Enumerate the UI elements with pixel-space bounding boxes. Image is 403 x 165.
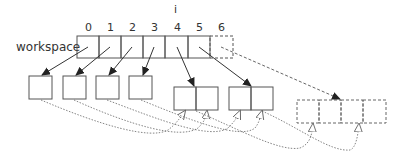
index-labels: 0 1 2 3 4 5 6 bbox=[85, 21, 225, 34]
index-3: 3 bbox=[151, 21, 158, 34]
curve-pairB-to-quad3 bbox=[262, 111, 359, 150]
node-box-0 bbox=[29, 76, 52, 99]
pair-b-cell-0 bbox=[229, 87, 251, 110]
pair-nodes bbox=[174, 87, 273, 110]
quad-cell-3 bbox=[363, 100, 386, 123]
index-4: 4 bbox=[174, 21, 181, 34]
node-box-1 bbox=[63, 76, 86, 99]
arrow-ws6-to-quad bbox=[221, 47, 340, 99]
curve-box0-to-pairA0 bbox=[41, 100, 185, 133]
quad-cell-2 bbox=[341, 100, 363, 123]
workspace-label: workspace bbox=[16, 40, 80, 54]
index-5: 5 bbox=[196, 21, 203, 34]
index-2: 2 bbox=[129, 21, 136, 34]
index-0: 0 bbox=[85, 21, 92, 34]
diagram-canvas: i workspace 0 1 2 3 4 5 6 bbox=[0, 0, 403, 165]
curve-pairA-to-quad1 bbox=[196, 111, 313, 148]
single-nodes bbox=[29, 76, 152, 99]
quad-cell-1 bbox=[319, 100, 341, 123]
arrow-ws4-to-pairA bbox=[177, 47, 194, 86]
workspace-diagram: i workspace 0 1 2 3 4 5 6 bbox=[0, 0, 403, 165]
arrow-ws3-to-box3 bbox=[143, 47, 154, 75]
quad-cell-0 bbox=[297, 100, 319, 123]
arrow-ws5-to-pairB bbox=[199, 47, 251, 86]
pointer-label-i: i bbox=[174, 3, 177, 16]
merge-curves bbox=[41, 100, 359, 150]
pair-a-cell-1 bbox=[196, 87, 218, 110]
curve-box3-to-pairB1 bbox=[141, 100, 262, 132]
node-box-2 bbox=[96, 76, 119, 99]
workspace-cell-4 bbox=[165, 36, 188, 58]
pair-a-cell-0 bbox=[174, 87, 196, 110]
node-box-3 bbox=[129, 76, 152, 99]
pair-b-cell-1 bbox=[251, 87, 273, 110]
index-1: 1 bbox=[107, 21, 114, 34]
pointer-arrows bbox=[42, 47, 340, 99]
quad-node-dashed bbox=[297, 100, 386, 123]
index-6: 6 bbox=[218, 21, 225, 34]
